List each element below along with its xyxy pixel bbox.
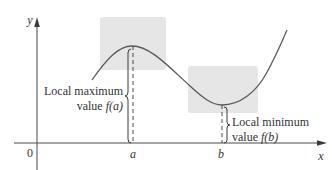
local-min-value-prefix: value — [232, 130, 261, 144]
x-axis-arrow-icon — [317, 140, 327, 146]
local-extrema-figure: y x 0 a b Local maximum value f(a) Local… — [0, 0, 332, 170]
local-min-function-value: f(b) — [261, 130, 278, 144]
local-max-label-line1: Local maximum — [44, 84, 124, 98]
y-axis-arrow-icon — [34, 17, 40, 27]
x-axis — [14, 140, 327, 146]
local-min-highlight-box — [188, 66, 258, 113]
local-max-label-line2: value f(a) — [77, 99, 123, 113]
x-axis-label: x — [317, 149, 324, 163]
local-min-label-line2: value f(b) — [232, 130, 278, 144]
y-axis — [34, 17, 40, 170]
tick-label-b: b — [218, 147, 224, 161]
y-axis-label: y — [26, 13, 33, 27]
tick-label-a: a — [130, 147, 136, 161]
origin-label: 0 — [27, 146, 33, 160]
local-min-label-line1: Local minimum — [232, 115, 310, 129]
local-max-value-prefix: value — [77, 99, 106, 113]
local-max-function-value: f(a) — [106, 99, 123, 113]
